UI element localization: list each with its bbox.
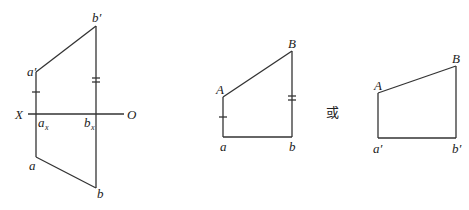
label-A: A — [215, 82, 224, 97]
label-b: b — [289, 139, 296, 154]
edge-A-B — [378, 66, 456, 93]
label-b: b — [97, 186, 104, 201]
line-a-prime-b-prime — [36, 26, 96, 72]
label-a: a — [29, 158, 36, 173]
label-b-x: b — [84, 115, 91, 130]
label-a-x: a — [38, 115, 45, 130]
projection-figure: b′ a′ X O a x b x a b — [14, 10, 137, 201]
label-b-x-sub: x — [90, 123, 95, 132]
label-A: A — [373, 78, 382, 93]
label-B: B — [452, 51, 460, 66]
label-a-prime: a′ — [27, 64, 37, 79]
or-separator: 或 — [326, 105, 339, 120]
label-a-x-sub: x — [44, 123, 49, 132]
line-a-b — [36, 157, 96, 188]
diagram-canvas: b′ a′ X O a x b x a b B A a b 或 B A a′ b… — [0, 0, 469, 210]
label-a-prime: a′ — [373, 141, 383, 156]
edge-A-B — [223, 51, 292, 97]
label-B: B — [288, 36, 296, 51]
label-b-prime: b′ — [452, 141, 462, 156]
label-a: a — [220, 139, 227, 154]
label-X: X — [14, 107, 24, 122]
label-b-prime: b′ — [92, 10, 102, 25]
label-O: O — [127, 107, 137, 122]
trapezoid-figure-2: B A a′ b′ — [373, 51, 462, 156]
trapezoid-figure-1: B A a b — [215, 36, 296, 154]
